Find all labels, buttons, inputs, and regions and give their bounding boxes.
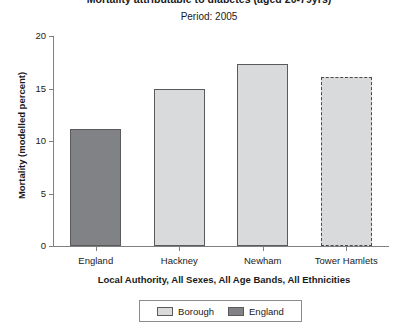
legend-item-borough[interactable]: Borough xyxy=(157,306,214,317)
y-tick-mark xyxy=(49,194,54,195)
y-tick-label: 15 xyxy=(18,84,46,94)
legend-label: Borough xyxy=(178,306,214,317)
y-tick-mark xyxy=(49,141,54,142)
y-tick-label: 20 xyxy=(18,31,46,41)
x-tick-mark xyxy=(346,246,347,251)
x-tick-label: Hackney xyxy=(138,255,222,266)
x-tick-mark xyxy=(96,246,97,251)
chart-subtitle: Period: 2005 xyxy=(0,11,418,22)
legend-label: England xyxy=(249,306,284,317)
x-tick-mark xyxy=(263,246,264,251)
y-tick-label: 10 xyxy=(18,136,46,146)
x-tick-label: Newham xyxy=(221,255,305,266)
x-tick-label: Tower Hamlets xyxy=(305,255,389,266)
x-axis-title: Local Authority, All Sexes, All Age Band… xyxy=(44,274,404,285)
y-tick-mark xyxy=(49,36,54,37)
bar-newham[interactable] xyxy=(237,64,288,246)
legend-swatch-icon xyxy=(157,307,173,316)
y-tick-mark xyxy=(49,246,54,247)
plot-area: 05101520 EnglandHackneyNewhamTower Hamle… xyxy=(54,36,388,246)
y-tick-label: 0 xyxy=(18,241,46,251)
x-tick-mark xyxy=(179,246,180,251)
y-tick-label: 5 xyxy=(18,189,46,199)
y-tick-mark xyxy=(49,89,54,90)
legend-item-england[interactable]: England xyxy=(228,306,284,317)
bar-england[interactable] xyxy=(70,129,121,246)
chart-legend: BoroughEngland xyxy=(139,300,302,322)
bar-hackney[interactable] xyxy=(154,89,205,247)
chart-title: Mortality attributable to diabetes (aged… xyxy=(0,0,418,5)
bar-chart: Mortality attributable to diabetes (aged… xyxy=(0,0,418,332)
x-tick-label: England xyxy=(54,255,138,266)
legend-swatch-icon xyxy=(228,307,244,316)
bar-tower-hamlets[interactable] xyxy=(321,77,372,246)
x-axis-line xyxy=(53,246,389,247)
